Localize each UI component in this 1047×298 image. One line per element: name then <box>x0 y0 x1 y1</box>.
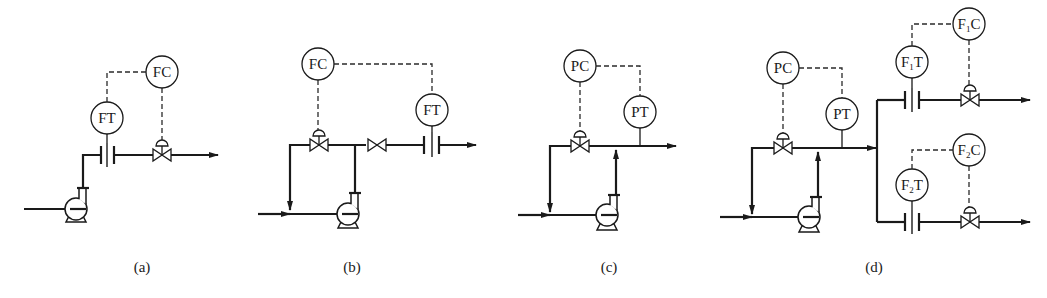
caption-d: (d) <box>865 259 883 276</box>
pump-icon <box>337 193 361 228</box>
pt-label: PT <box>833 106 851 122</box>
signal-line <box>912 24 953 46</box>
pt-label: PT <box>631 104 649 120</box>
hand-valve-icon <box>368 139 386 151</box>
signal-line <box>799 68 842 98</box>
instrument-fc: FC <box>146 56 178 88</box>
control-valve-2-icon <box>961 207 979 228</box>
ft-label: FT <box>98 110 116 126</box>
control-valve-icon <box>153 140 171 161</box>
signal-line <box>912 150 953 169</box>
pump-icon <box>65 188 89 222</box>
instrument-pt: PT <box>826 98 858 130</box>
fc-label: FC <box>153 64 171 80</box>
process-control-diagrams: FT FC (a) <box>0 0 1047 298</box>
instrument-f2c: F2C <box>953 134 985 166</box>
panel-b: FT FC (b) <box>258 48 476 276</box>
signal-line <box>596 66 640 96</box>
signal-line <box>107 72 146 102</box>
instrument-pc: PC <box>767 52 799 84</box>
orifice-plate-2-icon <box>905 210 919 234</box>
control-valve-icon <box>571 131 589 152</box>
panel-d: PT PC F1T F1C <box>720 8 1030 276</box>
orifice-plate-1-icon <box>905 88 919 112</box>
pc-label: PC <box>774 60 792 76</box>
control-valve-icon <box>774 133 792 154</box>
pc-label: PC <box>571 58 589 74</box>
control-valve-icon <box>310 130 328 151</box>
panel-a: FT FC (a) <box>24 56 218 276</box>
ft-label: FT <box>423 102 441 118</box>
instrument-f1t: F1T <box>896 46 928 78</box>
caption-b: (b) <box>343 259 361 276</box>
instrument-fc: FC <box>302 48 334 80</box>
pump-icon <box>798 197 822 232</box>
instrument-ft: FT <box>416 94 448 126</box>
signal-line <box>334 64 432 94</box>
instrument-pt: PT <box>624 96 656 128</box>
orifice-plate-icon <box>101 143 114 167</box>
pump-icon <box>596 195 620 230</box>
control-valve-1-icon <box>961 85 979 106</box>
instrument-f2t: F2T <box>896 169 928 201</box>
discharge-pipe <box>83 155 100 188</box>
instrument-f1c: F1C <box>953 8 985 40</box>
instrument-pc: PC <box>564 50 596 82</box>
orifice-plate-icon <box>424 132 439 157</box>
panel-c: PT PC (c) <box>518 50 676 276</box>
caption-c: (c) <box>601 259 618 276</box>
instrument-ft: FT <box>91 102 123 134</box>
caption-a: (a) <box>134 259 151 276</box>
fc-label: FC <box>309 56 327 72</box>
